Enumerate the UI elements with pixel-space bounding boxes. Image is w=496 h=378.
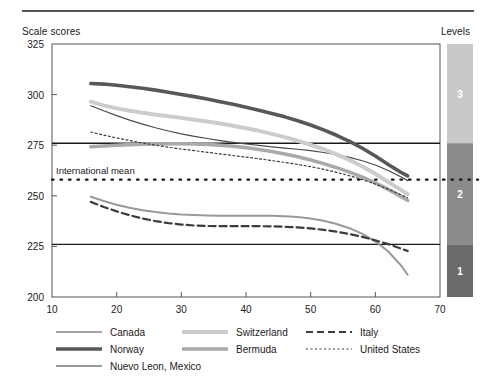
legend-label-united-states[interactable]: United States: [360, 344, 420, 355]
x-tick-label: 30: [176, 304, 188, 315]
x-tick-label: 70: [434, 304, 446, 315]
legend-label-italy[interactable]: Italy: [360, 327, 378, 338]
y-tick-label: 300: [27, 90, 44, 101]
y-tick-label: 275: [27, 140, 44, 151]
legend-label-norway[interactable]: Norway: [110, 344, 144, 355]
x-tick-label: 10: [46, 304, 58, 315]
legend-label-nuevo-leon-mexico[interactable]: Nuevo Leon, Mexico: [110, 361, 202, 372]
legend-label-switzerland[interactable]: Switzerland: [236, 327, 288, 338]
line-chart: 32120022525027530032510203040506070Inter…: [0, 0, 496, 378]
y-tick-label: 250: [27, 191, 44, 202]
legend-label-bermuda[interactable]: Bermuda: [236, 344, 277, 355]
x-tick-label: 20: [111, 304, 123, 315]
y-tick-label: 200: [27, 292, 44, 303]
x-tick-label: 50: [305, 304, 317, 315]
level-label-2: 2: [457, 189, 463, 200]
x-tick-label: 40: [240, 304, 252, 315]
legend-label-canada[interactable]: Canada: [110, 327, 145, 338]
series-line-nuevo-leon-mexico: [91, 197, 408, 275]
level-label-3: 3: [457, 89, 463, 100]
chart-page: Scale scores Levels 32120022525027530032…: [0, 0, 496, 378]
series-line-bermuda: [91, 144, 408, 201]
y-tick-label: 225: [27, 241, 44, 252]
x-tick-label: 60: [370, 304, 382, 315]
level-label-1: 1: [457, 266, 463, 277]
international-mean-label: International mean: [56, 165, 135, 176]
y-tick-label: 325: [27, 39, 44, 50]
